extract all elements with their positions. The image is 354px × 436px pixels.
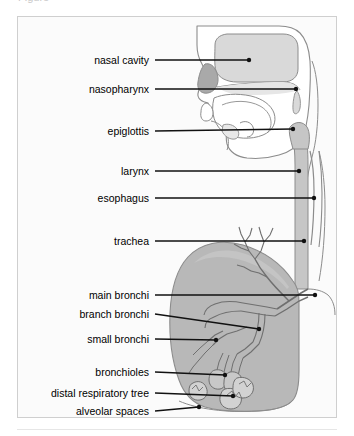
label-nasal-cavity: nasal cavity (18, 54, 149, 66)
label-main-bronchi: main bronchi (18, 289, 149, 301)
label-nasopharynx: nasopharynx (18, 83, 149, 95)
label-small-bronchi: small bronchi (18, 333, 149, 345)
bottom-separator-rule (17, 429, 337, 430)
cut-off-caption-fragment: Figure (0, 0, 354, 9)
label-esophagus: esophagus (18, 192, 149, 204)
anatomy-figure-box: nasal cavitynasopharynxepiglottislarynxe… (17, 16, 337, 418)
label-larynx: larynx (18, 165, 149, 177)
label-trachea: trachea (18, 235, 149, 247)
screenshot-root: Figure (0, 0, 354, 436)
label-distal-respiratory-tree: distal respiratory tree (18, 387, 149, 399)
label-layer: nasal cavitynasopharynxepiglottislarynxe… (18, 17, 337, 418)
label-branch-bronchi: branch bronchi (18, 308, 149, 320)
label-bronchioles: bronchioles (18, 366, 149, 378)
cut-off-caption-text: Figure (18, 0, 49, 3)
label-epiglottis: epiglottis (18, 125, 149, 137)
label-alveolar-spaces: alveolar spaces (18, 405, 149, 417)
